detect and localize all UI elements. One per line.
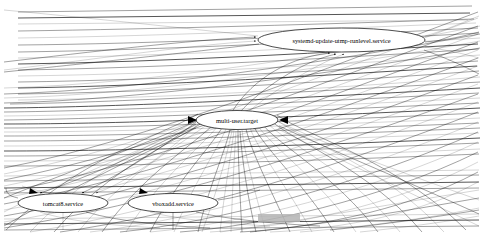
node-label-systemd-update-utmp-runlevel: systemd-update-utmp-runlevel.service <box>292 37 390 44</box>
gray-block-artifact <box>258 214 300 222</box>
dependency-graph-svg: systemd-update-utmp-runlevel.service mul… <box>0 0 481 240</box>
node-label-vboxadd: vboxadd.service <box>152 200 194 207</box>
node-label-multi-user-target: multi-user.target <box>216 117 258 124</box>
node-label-tomcat8: tomcat8.service <box>43 200 83 207</box>
graph-canvas: systemd-update-utmp-runlevel.service mul… <box>0 0 481 240</box>
node-systemd-update-utmp-runlevel[interactable]: systemd-update-utmp-runlevel.service <box>258 28 425 52</box>
